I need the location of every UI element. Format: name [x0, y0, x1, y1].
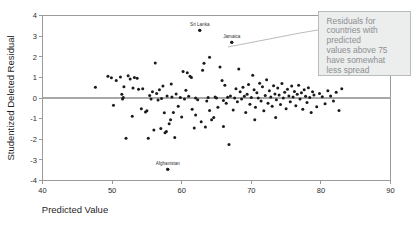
data-point [165, 130, 168, 133]
data-point [258, 82, 261, 85]
y-tick-label: 4 [33, 11, 37, 20]
data-point [299, 98, 302, 101]
data-point [294, 104, 297, 107]
y-tick-label: -4 [30, 176, 37, 185]
data-point [94, 86, 97, 89]
data-point [275, 98, 278, 101]
data-point [170, 95, 173, 98]
data-point [267, 102, 270, 105]
data-point [183, 98, 186, 101]
y-tick-label: 2 [33, 53, 37, 62]
data-point [241, 86, 244, 89]
data-point [286, 88, 289, 91]
data-point [307, 86, 310, 89]
data-point [169, 118, 172, 121]
data-point [208, 109, 211, 112]
data-point [255, 91, 258, 94]
data-point [310, 111, 313, 114]
data-point [246, 93, 249, 96]
data-point [184, 89, 187, 92]
data-point [332, 100, 335, 103]
x-tick-label: 60 [178, 186, 186, 195]
data-point [290, 85, 293, 88]
data-point [321, 95, 324, 98]
data-point [329, 94, 332, 97]
axis-titles-layer: Predicted ValueStudentized Deleted Resid… [5, 35, 108, 215]
data-point [312, 94, 315, 97]
data-point [175, 92, 178, 95]
y-tick-label: 0 [33, 94, 37, 103]
annotation-line: countries with [327, 25, 379, 35]
data-point [201, 69, 204, 72]
data-point [326, 89, 329, 92]
data-point [150, 98, 153, 101]
scatterplot-figure: Sri LankaJamaicaAfghanistan 405060708090… [0, 0, 416, 227]
data-point [268, 89, 271, 92]
annotation-line: have somewhat [327, 55, 386, 65]
data-point [285, 107, 288, 110]
annotation-line: predicted [327, 35, 362, 45]
data-point [205, 100, 208, 103]
data-point [237, 68, 240, 71]
data-point [180, 115, 183, 118]
data-point [304, 95, 307, 98]
data-point [228, 143, 231, 146]
data-point [152, 128, 155, 131]
data-point [170, 82, 173, 85]
data-point [110, 76, 113, 79]
data-point [222, 125, 225, 128]
data-point [194, 113, 197, 116]
data-point [271, 105, 274, 108]
data-point [163, 111, 166, 114]
data-point [278, 93, 281, 96]
data-point [301, 108, 304, 111]
data-point [122, 85, 125, 88]
data-point [215, 97, 218, 100]
data-point [226, 96, 229, 99]
data-point [187, 95, 190, 98]
data-point [218, 66, 221, 69]
data-point [147, 137, 150, 140]
data-point [221, 79, 224, 82]
data-point [324, 102, 327, 105]
data-point [166, 94, 169, 97]
data-point [254, 106, 257, 109]
data-point [119, 75, 122, 78]
data-point [131, 87, 134, 90]
data-point [248, 103, 251, 106]
data-point [282, 97, 285, 100]
x-tick-label: 40 [38, 186, 46, 195]
data-point [136, 77, 139, 80]
data-point [280, 82, 283, 85]
data-point [303, 88, 306, 91]
x-axis-title: Predicted Value [42, 204, 108, 215]
data-point [297, 84, 300, 87]
data-point [112, 104, 115, 107]
data-point [244, 111, 247, 114]
data-point [318, 92, 321, 95]
data-point [236, 100, 239, 103]
data-point [191, 108, 194, 111]
data-point [160, 97, 163, 100]
data-point [338, 109, 341, 112]
data-point [233, 97, 236, 100]
data-point [133, 76, 136, 79]
data-point [287, 94, 290, 97]
y-tick-label: -2 [30, 135, 37, 144]
data-point [253, 118, 256, 121]
data-point [212, 116, 215, 119]
data-point [335, 91, 338, 94]
data-point [250, 96, 253, 99]
data-point [293, 90, 296, 93]
data-point [229, 94, 232, 97]
data-point [182, 70, 185, 73]
data-point [120, 93, 123, 96]
data-point [265, 78, 268, 81]
y-axis-title: Studentized Deleted Residual [5, 35, 16, 160]
labeled-data-point [230, 41, 233, 44]
data-point [308, 96, 311, 99]
data-point [125, 137, 128, 140]
data-point [225, 102, 228, 105]
data-point-label: Sri Lanka [190, 22, 210, 27]
data-point [202, 62, 205, 65]
